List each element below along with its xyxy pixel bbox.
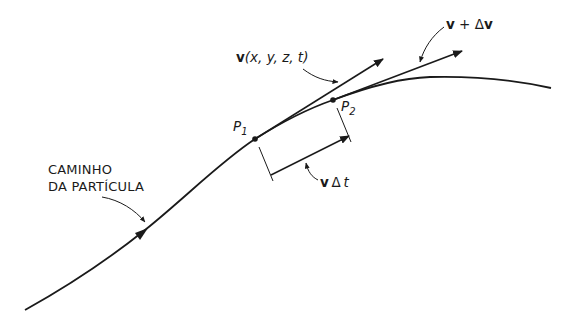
point-p1-label: P1 (233, 118, 248, 134)
velocity-plus-delta-arrow (333, 51, 462, 100)
path-direction-arrow-icon (135, 228, 148, 240)
velocity-plus-label-leader (420, 27, 444, 62)
displacement-arrow (271, 136, 349, 175)
path-label: CAMINHO DA PARTÍCULA (48, 161, 144, 195)
velocity-vector-arrow (255, 59, 383, 139)
diagram-canvas (0, 0, 586, 316)
velocity-plus-delta-label: v + Δv (446, 16, 493, 32)
displacement-label-leader (306, 163, 318, 180)
path-label-line2: DA PARTÍCULA (48, 178, 144, 195)
displacement-label: v Δ t (320, 174, 349, 190)
point-p2-label: P2 (341, 98, 356, 114)
point-p2-dot (330, 97, 336, 103)
displacement-tick-p1 (259, 147, 273, 181)
velocity-label-leader (303, 69, 338, 82)
velocity-label: v(x, y, z, t) (236, 49, 308, 65)
path-label-leader (102, 197, 145, 222)
path-label-line1: CAMINHO (48, 161, 144, 178)
point-p1-dot (252, 136, 258, 142)
